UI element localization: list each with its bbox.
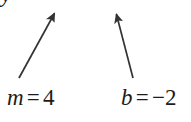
slope-label: m=4 — [7, 86, 55, 109]
slope-variable: m — [7, 85, 24, 110]
intercept-arrow — [116, 14, 133, 78]
intercept-variable: b — [121, 85, 133, 110]
annotation-figure: y m=4 b=−2 — [0, 0, 191, 122]
slope-arrow — [19, 14, 54, 79]
intercept-label: b=−2 — [121, 86, 177, 109]
intercept-operator: = — [133, 85, 152, 110]
intercept-value: −2 — [152, 85, 177, 110]
slope-value: 4 — [43, 85, 55, 110]
slope-operator: = — [24, 85, 43, 110]
